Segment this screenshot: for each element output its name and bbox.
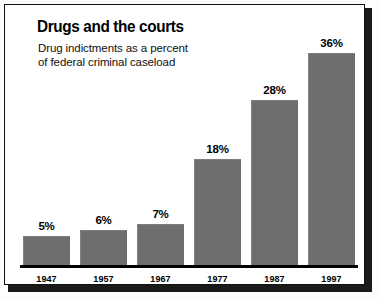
bar-value-label: 18% [194,143,241,155]
bar [194,159,241,265]
chart-frame: Drugs and the courts Drug indictments as… [4,4,365,285]
x-axis-tick-label: 1977 [194,274,241,284]
plot-area: 5%19476%19577%196718%197728%198736%1997 [5,5,365,285]
x-axis-tick-label: 1987 [251,274,298,284]
chart-figure: Drugs and the courts Drug indictments as… [0,0,380,300]
bar [308,53,355,265]
x-axis-tick-label: 1967 [137,274,184,284]
bar-value-label: 28% [251,84,298,96]
bar [80,230,127,265]
bar [137,224,184,265]
bar [23,236,70,265]
x-axis-tick-label: 1947 [23,274,70,284]
x-axis-tick-label: 1957 [80,274,127,284]
x-axis-tick-label: 1997 [308,274,355,284]
bar-value-label: 36% [308,37,355,49]
x-axis-line [20,265,358,268]
bar-value-label: 6% [80,214,127,226]
bar-value-label: 5% [23,220,70,232]
bar [251,100,298,265]
bar-value-label: 7% [137,208,184,220]
